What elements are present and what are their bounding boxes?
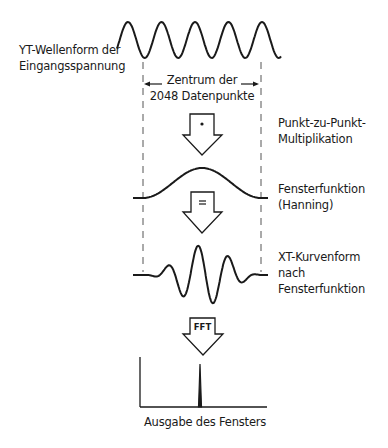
label-line: YT-Wellenform der	[19, 43, 125, 59]
label-line: nach	[278, 265, 365, 281]
label-line: Fensterfunktion	[278, 281, 365, 297]
spectrum-output	[140, 357, 267, 407]
label-line: Fensterfunktion	[278, 182, 365, 198]
label-line: (Hanning)	[278, 198, 365, 214]
window-function-label: Fensterfunktion (Hanning)	[278, 182, 365, 213]
windowed-waveform-label: XT-Kurvenform nach Fensterfunktion	[278, 249, 365, 297]
equals-arrow	[183, 192, 222, 233]
label-line: Punkt-zu-Punkt-	[278, 116, 366, 132]
label-line: Zentrum der	[145, 73, 259, 89]
label-line: Ausgabe des Fensters	[130, 415, 280, 431]
label-line: Multiplikation	[278, 132, 366, 148]
fft-arrow-label: FFT	[194, 322, 212, 332]
input-sine-waveform	[117, 22, 281, 58]
input-waveform-label: YT-Wellenform der Eingangsspannung	[19, 43, 125, 74]
center-region-label: Zentrum der 2048 Datenpunkte	[145, 73, 259, 104]
fft-arrow: FFT	[183, 318, 223, 355]
multiply-dot-icon	[200, 122, 203, 125]
multiplication-label: Punkt-zu-Punkt- Multiplikation	[278, 116, 366, 147]
multiply-arrow	[183, 114, 222, 155]
windowed-waveform	[133, 246, 268, 303]
label-line: Eingangsspannung	[19, 59, 125, 75]
label-line: 2048 Datenpunkte	[145, 89, 259, 105]
label-line: XT-Kurvenform	[278, 249, 365, 265]
output-label: Ausgabe des Fensters	[130, 415, 280, 431]
spectrum-peak	[199, 364, 202, 407]
